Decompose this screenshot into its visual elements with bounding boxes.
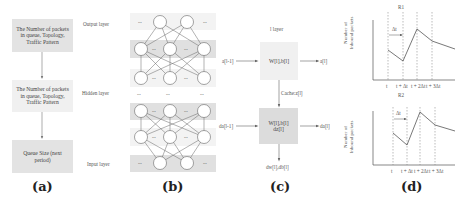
panel-d-label: (d) (401, 179, 422, 194)
chart-1-title: R1 (398, 4, 404, 10)
chart-2-tick-t3: t + 3Δt (429, 168, 443, 174)
chart-2-title: R2 (398, 92, 404, 98)
chart-2-tick-t2: t + 2Δt (414, 168, 428, 174)
chart-2-delta-label: Δt (396, 110, 401, 116)
panel-d: R1 Δt Number of Inbound packets t t + Δt… (0, 0, 465, 207)
chart-2-tick-t1: t + Δt (401, 168, 413, 174)
chart-1-tick-t3: t + 3Δt (426, 83, 440, 89)
chart-2-tick-t: t (391, 168, 392, 174)
chart-1-ylabel: Number of Inbound packets (343, 8, 354, 58)
chart-1-tick-t2: t + 2Δt (411, 83, 425, 89)
chart-1-tick-t1: t + Δt (396, 83, 408, 89)
chart-2-ylabel: Number of Inbound packets (343, 112, 354, 162)
chart-1-tick-t: t (386, 83, 387, 89)
chart-1-delta-label: Δt (392, 26, 397, 32)
